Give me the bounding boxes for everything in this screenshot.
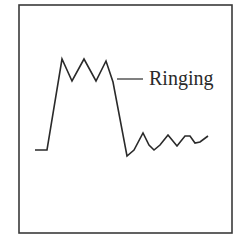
ringing-label: Ringing [149, 68, 213, 88]
ringing-diagram [0, 0, 246, 247]
diagram-frame [19, 5, 232, 233]
